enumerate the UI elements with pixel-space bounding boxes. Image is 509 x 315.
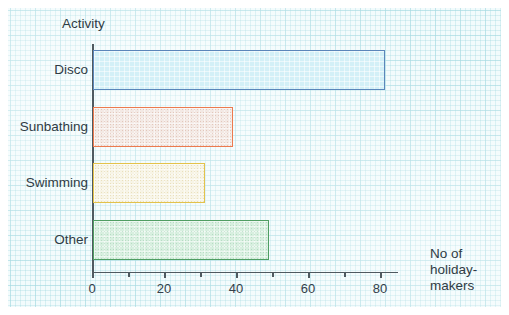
x-axis-tick-minor-10	[128, 272, 130, 277]
y-axis-category-label: Sunbathing	[0, 119, 88, 134]
x-axis-title-line: holiday-	[430, 262, 502, 278]
chart-figure: Activity 0 20 40 60 80 Disco Sunbathing …	[0, 0, 509, 315]
x-axis-tick-label: 20	[144, 281, 184, 296]
x-axis-tick-label: 60	[288, 281, 328, 296]
y-axis-category-label: Other	[0, 232, 88, 247]
x-axis-tick-minor-30	[200, 272, 202, 277]
bar-swimming: Swimming	[93, 163, 205, 203]
bar-sunbathing: Sunbathing	[93, 107, 233, 147]
x-axis-line	[92, 272, 398, 274]
x-axis-tick-60	[308, 272, 310, 278]
x-axis-tick-minor-70	[344, 272, 346, 277]
x-axis-tick-40	[236, 272, 238, 278]
x-axis-tick-label: 40	[216, 281, 256, 296]
x-axis-tick-label: 0	[72, 281, 112, 296]
y-axis-category-label: Swimming	[0, 175, 88, 190]
x-axis-tick-20	[164, 272, 166, 278]
x-axis-tick-minor-50	[272, 272, 274, 277]
x-axis-tick-label: 80	[360, 281, 400, 296]
x-axis-tick-80	[380, 272, 382, 278]
x-axis-title: No of holiday- makers	[430, 246, 502, 294]
x-axis-title-line: makers	[430, 278, 502, 294]
bar-other: Other	[93, 220, 269, 260]
x-axis-title-line: No of	[430, 246, 502, 262]
y-axis-title: Activity	[62, 16, 105, 31]
x-axis-tick-0	[92, 272, 94, 278]
y-axis-category-label: Disco	[0, 62, 88, 77]
bar-disco: Disco	[93, 50, 385, 90]
